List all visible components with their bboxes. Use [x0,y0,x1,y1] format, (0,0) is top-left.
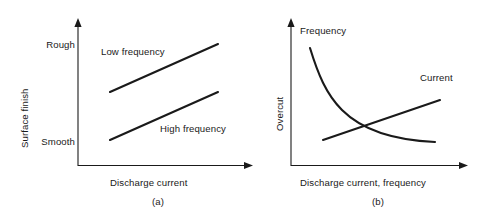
chart-a-x-axis [78,162,253,169]
chart-b-x-axis [291,162,468,169]
y-axis-arrowhead-icon [74,18,81,27]
chart-a-x-axis-label: Discharge current [110,178,187,188]
chart-b-y-axis-label: Overcut [275,97,285,131]
chart-a-ytick-rough: Rough [15,40,75,50]
figure-emd-process-parameters: Surface finish Rough Smooth Low frequenc… [0,0,484,214]
x-axis-arrowhead-icon [244,162,253,169]
chart-panel-a: Surface finish Rough Smooth Low frequenc… [0,0,262,214]
chart-a-ytick-smooth: Smooth [10,137,75,147]
chart-b-x-axis-label: Discharge current, frequency [300,178,426,188]
chart-a-caption: (a) [152,197,164,207]
series-frequency-curve [310,48,435,142]
chart-b-y-axis [287,18,294,166]
chart-a-y-axis [74,18,81,166]
chart-panel-b: Overcut Frequency Current Discharge curr… [262,0,484,214]
chart-b-series-label-frequency: Frequency [300,26,346,36]
chart-a-series-label-high-frequency: High frequency [160,124,226,134]
chart-a-series-label-low-frequency: Low frequency [101,47,165,57]
x-axis-arrowhead-icon [459,162,468,169]
chart-b-caption: (b) [372,197,384,207]
y-axis-arrowhead-icon [287,18,294,27]
chart-b-series-label-current: Current [420,73,453,83]
